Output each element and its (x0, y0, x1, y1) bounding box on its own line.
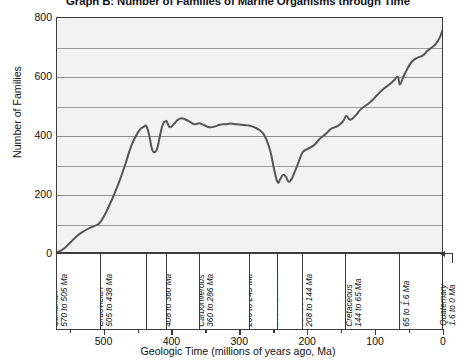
period-range: 570 to 505 Ma (61, 274, 70, 327)
x-tick-minor (273, 329, 274, 333)
period-label: Devonian408 to 360 Ma (167, 274, 174, 327)
plot-area (56, 17, 443, 253)
data-series-line (57, 18, 443, 253)
chart-root: Graph B: Number of Families of Marine Or… (0, 0, 476, 360)
period-range: 65 to 1.6 Ma (403, 281, 412, 327)
x-tick-minor (138, 329, 139, 333)
period-cell: Triassic245 to 208 Ma (278, 254, 303, 330)
period-label: Silurian438 to 408 Ma (147, 274, 149, 327)
period-cell: Silurian438 to 408 Ma (147, 254, 167, 330)
period-cell: Devonian408 to 360 Ma (167, 254, 200, 330)
x-axis-line (56, 329, 443, 330)
period-cell: Carboniferous360 to 286 Ma (200, 254, 250, 330)
period-range: 505 to 438 Ma (105, 274, 114, 327)
period-cell: Ordovician505 to 438 Ma (101, 254, 147, 330)
y-tick-label: 600 (22, 71, 52, 81)
period-cell: Permian286 to 245 Ma (250, 254, 278, 330)
x-tick-minor (70, 329, 71, 333)
period-range: 360 to 286 Ma (206, 274, 215, 327)
chart-title: Graph B: Number of Families of Marine Or… (0, 0, 476, 7)
y-tick-label: 200 (22, 189, 52, 199)
y-tick-label: 400 (22, 130, 52, 140)
period-label: Jurassic208 to 144 Ma (303, 274, 316, 327)
period-range: 438 to 408 Ma (147, 274, 149, 327)
period-label: Permian286 to 245 Ma (250, 274, 255, 327)
period-range: 208 to 144 Ma (306, 274, 315, 327)
period-label: Carboniferous360 to 286 Ma (200, 274, 216, 327)
period-label: Cambrian570 to 505 Ma (57, 274, 70, 327)
y-tick-label: 800 (22, 12, 52, 22)
y-tick-label: 0 (22, 248, 52, 258)
period-cell: Cretaceous144 to 65 Ma (346, 254, 400, 330)
x-tick-minor (409, 329, 410, 333)
period-label: Tertiary65 to 1.6 Ma (400, 281, 413, 327)
y-axis-ticks: 0200400600800 (18, 0, 52, 253)
quaternary-bracket (444, 253, 453, 263)
period-range: 286 to 245 Ma (250, 274, 255, 327)
period-cell: Cambrian570 to 505 Ma (57, 254, 101, 330)
period-label: Ordovician505 to 438 Ma (101, 274, 115, 327)
period-range: 144 to 65 Ma (355, 279, 364, 327)
x-axis-label: Geologic Time (millions of years ago, Ma… (0, 345, 476, 357)
quaternary-arrow-icon (440, 251, 445, 257)
x-tick-minor (341, 329, 342, 333)
period-range: 245 to 208 Ma (278, 274, 282, 327)
period-label: Cretaceous144 to 65 Ma (346, 279, 364, 327)
geologic-period-band: Cambrian570 to 505 MaOrdovician505 to 43… (56, 253, 443, 329)
quaternary-callout: Quaternary1.6 to 0 Ma (444, 253, 476, 329)
x-tick-minor (205, 329, 206, 333)
period-cell: Jurassic208 to 144 Ma (303, 254, 347, 330)
period-cell: Tertiary65 to 1.6 Ma (400, 254, 443, 330)
period-label: Triassic245 to 208 Ma (278, 274, 282, 327)
callout-range: 1.6 to 0 Ma (449, 284, 458, 326)
quaternary-label: Quaternary1.6 to 0 Ma (439, 284, 458, 326)
period-range: 408 to 360 Ma (167, 274, 174, 327)
